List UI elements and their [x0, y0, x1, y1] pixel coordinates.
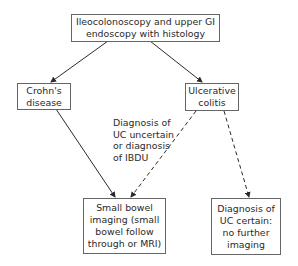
node-text: bowel follow: [95, 226, 153, 238]
node-ulcerative-colitis: Ulcerative colitis: [185, 83, 239, 111]
label-text: or diagnosis: [113, 140, 174, 152]
node-text: endoscopy with histology: [86, 28, 205, 40]
node-text: disease: [26, 97, 62, 109]
node-text: Ulcerative: [188, 85, 236, 97]
node-endoscopy: Ileocolonoscopy and upper GI endoscopy w…: [71, 14, 220, 42]
node-text: colitis: [198, 97, 225, 109]
node-uc-certain: Diagnosis of UC certain: no further imag…: [211, 198, 281, 255]
label-text: Diagnosis of: [113, 117, 174, 129]
node-text: imaging: [227, 239, 265, 251]
arrow-start-to-uc: [150, 41, 202, 82]
node-text: no further: [223, 227, 270, 239]
edge-label-uc-uncertain: Diagnosis of UC uncertain or diagnosis o…: [113, 117, 174, 163]
node-crohns-disease: Crohn's disease: [17, 83, 71, 110]
arrow-uc-to-uc-certain: [224, 111, 249, 197]
node-text: imaging (small: [90, 214, 160, 226]
node-text: Diagnosis of: [217, 203, 275, 215]
arrow-crohns-to-small-bowel: [56, 109, 115, 197]
node-text: UC certain:: [220, 215, 272, 227]
arrow-start-to-crohns: [51, 41, 108, 82]
node-text: Ileocolonoscopy and upper GI: [76, 16, 215, 28]
label-text: of IBDU: [113, 152, 174, 164]
node-small-bowel-imaging: Small bowel imaging (small bowel follow …: [83, 198, 166, 254]
label-text: UC uncertain: [113, 129, 174, 141]
node-text: through or MRI): [88, 238, 161, 250]
node-text: Small bowel: [96, 202, 153, 214]
node-text: Crohn's: [26, 85, 61, 97]
